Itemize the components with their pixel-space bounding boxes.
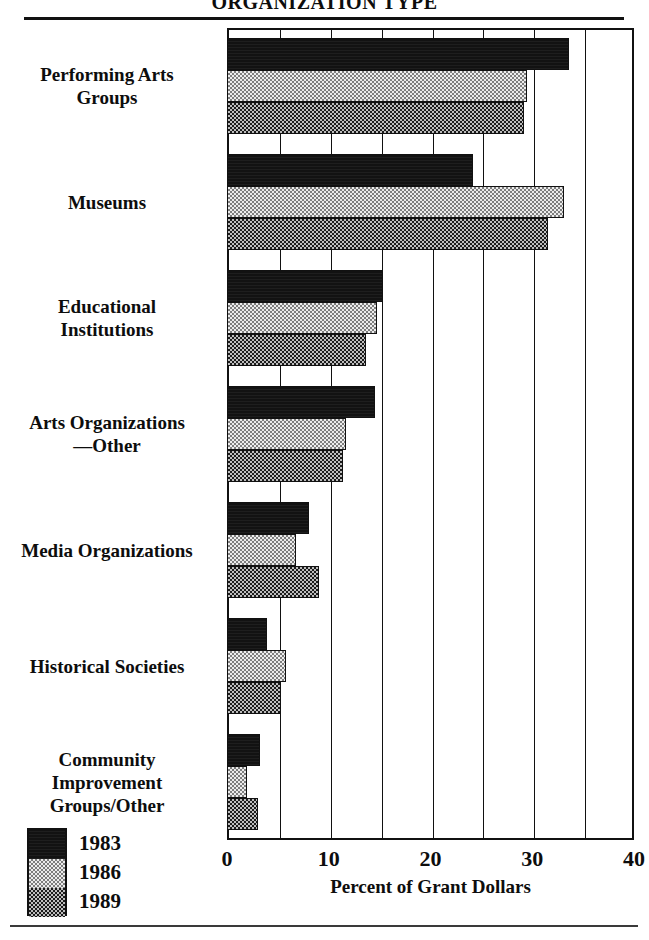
legend-swatch-1989: [29, 888, 65, 917]
category-label: Media Organizations: [0, 539, 214, 562]
bar-1983[interactable]: [227, 154, 473, 186]
title-divider-rule: [24, 17, 624, 20]
x-tick-label-10: 10: [299, 846, 359, 872]
bar-1989[interactable]: [227, 334, 366, 366]
category-label-line: Groups: [0, 86, 214, 109]
category-label-line: Historical Societies: [0, 655, 214, 678]
bar-group: [227, 154, 634, 250]
bar-group: [227, 270, 634, 366]
category-label: Performing ArtsGroups: [0, 63, 214, 109]
category-label-line: Community: [0, 748, 214, 771]
legend-label-1986[interactable]: 1986: [79, 860, 199, 885]
bar-1983[interactable]: [227, 502, 309, 534]
category-label-line: —Other: [0, 434, 214, 457]
bar-group: [227, 386, 634, 482]
category-label-line: Improvement: [0, 771, 214, 794]
x-tick-label-30: 30: [502, 846, 562, 872]
legend-label-1989[interactable]: 1989: [79, 889, 199, 914]
category-label-line: Educational: [0, 295, 214, 318]
category-label: Museums: [0, 191, 214, 214]
category-label-line: Performing Arts: [0, 63, 214, 86]
x-tick-label-0: 0: [197, 846, 257, 872]
legend-swatch-1983: [29, 830, 65, 859]
category-label-line: Institutions: [0, 318, 214, 341]
category-label-line: Groups/Other: [0, 794, 214, 817]
bar-1983[interactable]: [227, 386, 375, 418]
bar-1986[interactable]: [227, 70, 527, 102]
bar-group: [227, 38, 634, 134]
legend-swatch-box: [27, 828, 67, 916]
bar-1986[interactable]: [227, 766, 247, 798]
category-label: EducationalInstitutions: [0, 295, 214, 341]
legend-label-1983[interactable]: 1983: [79, 831, 199, 856]
bar-group: [227, 502, 634, 598]
bar-1989[interactable]: [227, 566, 319, 598]
x-axis-label: Percent of Grant Dollars: [227, 876, 634, 898]
bar-1986[interactable]: [227, 302, 377, 334]
bar-1989[interactable]: [227, 218, 548, 250]
category-label: Historical Societies: [0, 655, 214, 678]
x-tick-label-40: 40: [604, 846, 649, 872]
bar-1986[interactable]: [227, 186, 564, 218]
footer-divider-rule: [10, 925, 638, 927]
bar-group: [227, 618, 634, 714]
category-label: Arts Organizations—Other: [0, 411, 214, 457]
bar-1986[interactable]: [227, 534, 296, 566]
x-tick-label-20: 20: [401, 846, 461, 872]
bar-1983[interactable]: [227, 734, 260, 766]
category-label-line: Media Organizations: [0, 539, 214, 562]
category-label-line: Museums: [0, 191, 214, 214]
bar-1989[interactable]: [227, 102, 524, 134]
bar-group: [227, 734, 634, 830]
bar-1983[interactable]: [227, 270, 383, 302]
bar-1983[interactable]: [227, 38, 569, 70]
bar-1989[interactable]: [227, 798, 258, 830]
bar-1989[interactable]: [227, 682, 281, 714]
category-label: CommunityImprovementGroups/Other: [0, 748, 214, 817]
chart-title: ORGANIZATION TYPE: [0, 0, 649, 14]
bar-1989[interactable]: [227, 450, 343, 482]
bar-1986[interactable]: [227, 650, 286, 682]
category-label-line: Arts Organizations: [0, 411, 214, 434]
legend-swatch-1986: [29, 859, 65, 888]
bar-1986[interactable]: [227, 418, 346, 450]
bar-1983[interactable]: [227, 618, 267, 650]
bars-layer: [227, 28, 634, 840]
